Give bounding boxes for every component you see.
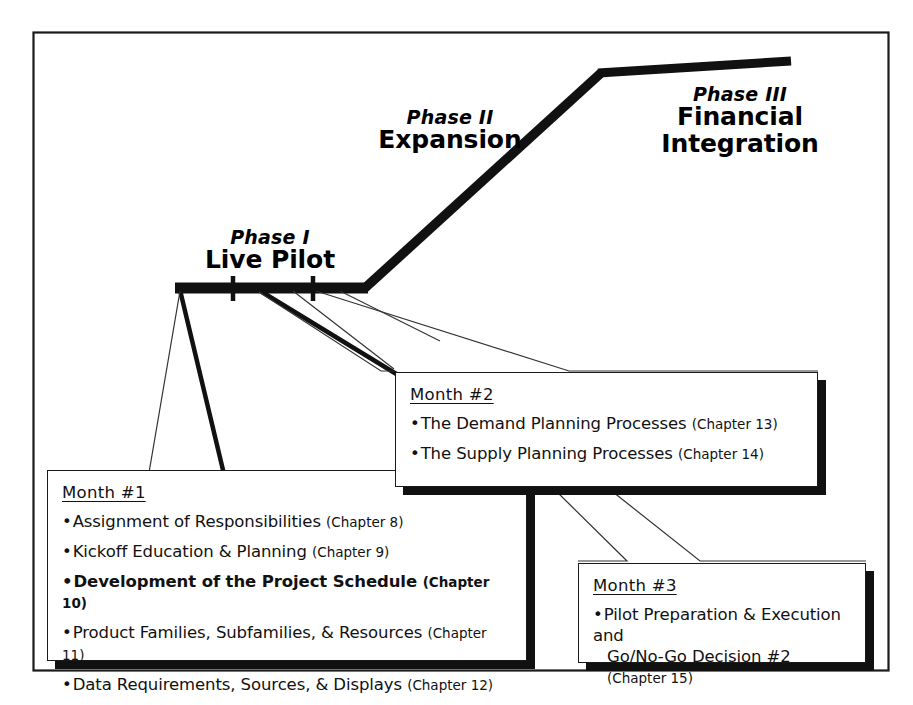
- month-3-box[interactable]: Month #3 •Pilot Preparation & Execution …: [578, 563, 866, 663]
- month-1-item-4-chapter: (Chapter 12): [407, 677, 493, 693]
- bullet-icon: •: [593, 605, 603, 624]
- phase-2-caption: Phase II Expansion: [355, 108, 545, 153]
- bullet-icon: •: [62, 512, 72, 531]
- month-1-item-1-chapter: (Chapter 9): [312, 544, 389, 560]
- month-1-item-0-chapter: (Chapter 8): [326, 514, 403, 530]
- leader-thin-month-3-left: [553, 488, 627, 561]
- list-item: •Data Requirements, Sources, & Displays …: [62, 674, 512, 695]
- month-3-item-0-text: Pilot Preparation & Execution and: [593, 605, 841, 645]
- list-item: •Assignment of Responsibilities (Chapter…: [62, 511, 512, 532]
- phase-3-plateau-line: [598, 61, 791, 73]
- month-1-item-3-text: Product Families, Subfamilies, & Resourc…: [73, 623, 428, 642]
- bullet-icon: •: [62, 623, 72, 642]
- list-item: •Development of the Project Schedule (Ch…: [62, 571, 512, 613]
- list-item: •Pilot Preparation & Execution and Go/No…: [593, 604, 851, 688]
- bullet-icon: •: [62, 675, 72, 694]
- phase-3-name: Financial Integration: [630, 104, 850, 157]
- month-1-item-2-text: Development of the Project Schedule: [73, 572, 422, 591]
- leader-thin-month-2-right: [316, 291, 818, 371]
- month-2-item-0-chapter: (Chapter 13): [692, 416, 778, 432]
- month-2-item-list: •The Demand Planning Processes (Chapter …: [410, 413, 803, 464]
- list-item: •The Supply Planning Processes (Chapter …: [410, 443, 803, 464]
- month-2-item-1-chapter: (Chapter 14): [678, 446, 764, 462]
- month-3-item-0-chapter: (Chapter 15): [607, 670, 693, 686]
- leader-thick-month-2: [262, 292, 398, 375]
- month-3-item-list: •Pilot Preparation & Execution and Go/No…: [593, 604, 851, 688]
- diagram-canvas: Phase I Live Pilot Phase II Expansion Ph…: [0, 0, 913, 705]
- month-1-item-0-text: Assignment of Responsibilities: [73, 512, 326, 531]
- bullet-icon: •: [62, 572, 72, 591]
- list-item: •Kickoff Education & Planning (Chapter 9…: [62, 541, 512, 562]
- phase-3-caption: Phase III Financial Integration: [630, 85, 850, 157]
- month-1-item-list: •Assignment of Responsibilities (Chapter…: [62, 511, 512, 695]
- bullet-icon: •: [62, 542, 72, 561]
- month-2-title: Month #2: [410, 385, 803, 404]
- month-2-item-1-text: The Supply Planning Processes: [421, 444, 678, 463]
- month-3-item-0-wrap-text: Go/No-Go Decision #2: [607, 647, 791, 666]
- phase-3-name-line-1: Financial: [677, 102, 803, 131]
- month-1-item-4-text: Data Requirements, Sources, & Displays: [73, 675, 407, 694]
- phase-2-name: Expansion: [355, 127, 545, 153]
- month-2-item-0-text: The Demand Planning Processes: [421, 414, 692, 433]
- month-3-item-0-wrap: Go/No-Go Decision #2 (Chapter 15): [593, 646, 851, 688]
- bullet-icon: •: [410, 414, 420, 433]
- leader-thin-month-2-mid: [293, 291, 394, 369]
- list-item: •The Demand Planning Processes (Chapter …: [410, 413, 803, 434]
- leader-thin-month-2-outer: [340, 291, 440, 341]
- month-1-item-1-text: Kickoff Education & Planning: [73, 542, 312, 561]
- month-1-box[interactable]: Month #1 •Assignment of Responsibilities…: [47, 470, 527, 661]
- bullet-icon: •: [410, 444, 420, 463]
- list-item: •Product Families, Subfamilies, & Resour…: [62, 622, 512, 664]
- month-3-title: Month #3: [593, 576, 851, 595]
- phase-3-name-line-2: Integration: [661, 129, 819, 158]
- phase-1-caption: Phase I Live Pilot: [175, 228, 365, 273]
- phase-1-name: Live Pilot: [175, 247, 365, 273]
- month-2-box[interactable]: Month #2 •The Demand Planning Processes …: [395, 372, 818, 487]
- leader-thin-month-3-right: [608, 488, 866, 561]
